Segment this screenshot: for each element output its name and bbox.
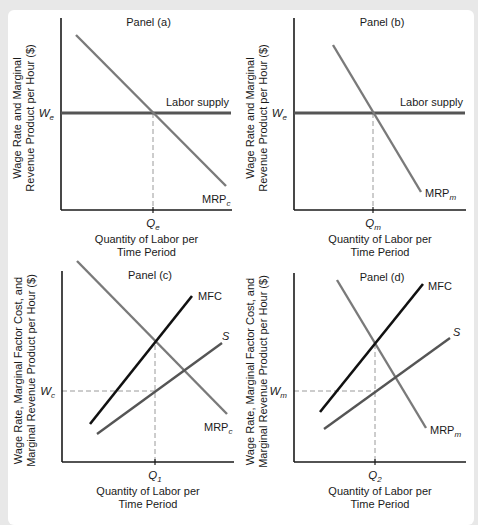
y-axis-title: Wage Rate, Marginal Factor Cost, and [244,278,256,465]
curve-label: MRPc [204,421,232,436]
curve-mrpm [337,280,426,428]
x-tick-label: Q1 [148,469,161,484]
x-axis-title: Time Period [351,498,410,510]
curve-mrpc [76,35,226,186]
curve-label: S [453,326,461,338]
panel-title: Panel (d) [360,271,405,283]
panel-c: MRPcMFCSPanel (c)Q1WcQuantity of Labor p… [12,261,234,510]
y-axis-title: Wage Rate and Marginal [244,57,256,178]
curve-label: MFC [198,290,222,302]
panel-d: MRPmMFCSPanel (d)Q2WmQuantity of Labor p… [244,271,466,510]
y-tick-label: Wc [40,385,55,400]
y-axis-title: Wage Rate, Marginal Factor Cost, and [12,277,24,464]
x-axis-title: Quantity of Labor per [96,485,200,497]
y-axis-title: Wage Rate and Marginal [11,57,23,178]
panel-title: Panel (a) [126,16,171,28]
y-axis-title: Marginal Revenue Product per Hour ($) [257,275,269,468]
y-axis-title: Marginal Revenue Product per Hour ($) [25,274,37,467]
curve-label: MRPm [425,187,456,202]
y-tick-label: We [272,107,288,122]
curve-mrpm [333,45,421,192]
curve-label: Labor supply [166,96,229,108]
curve-label: MFC [428,280,452,292]
panel-a: Labor supplyMRPcPanel (a)QeWeQuantity of… [11,16,232,258]
y-tick-label: We [39,107,55,122]
panel-title: Panel (c) [128,269,172,281]
x-axis-title: Time Period [117,246,176,258]
y-axis-title: Revenue Product per Hour ($) [24,44,36,191]
x-axis-title: Time Period [351,246,410,258]
x-tick-label: Qm [365,217,381,232]
y-axis-title: Revenue Product per Hour ($) [257,44,269,191]
panel-title: Panel (b) [360,16,405,28]
x-tick-label: Q2 [368,469,382,484]
x-tick-label: Qe [146,217,160,232]
curve-mfc [320,284,423,412]
curve-label: Labor supply [400,96,463,108]
x-axis-title: Quantity of Labor per [328,233,432,245]
curve-label: MRPc [202,193,230,208]
panel-b: Labor supplyMRPmPanel (b)QmWeQuantity of… [244,16,466,258]
x-axis-title: Quantity of Labor per [95,233,199,245]
x-axis-title: Quantity of Labor per [328,485,432,497]
curve-label: MRPm [430,424,461,439]
curve-label: S [222,330,230,342]
x-axis-title: Time Period [119,498,178,510]
curve-mfc [90,296,192,424]
y-tick-label: Wm [269,385,287,400]
